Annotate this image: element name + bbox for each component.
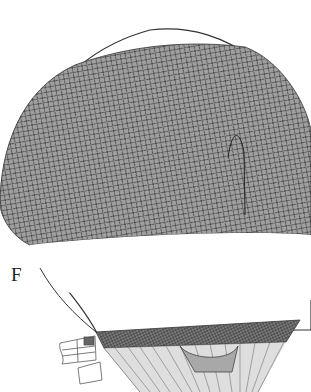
net-upper: [0, 44, 311, 245]
flag-icon: [60, 336, 102, 384]
balloon-drawing: [0, 0, 311, 392]
figure-label: F: [11, 264, 22, 286]
white-band: [30, 233, 311, 301]
